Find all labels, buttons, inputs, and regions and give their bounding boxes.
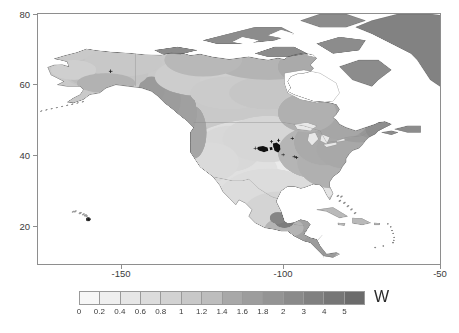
colorbar-segment-9 — [263, 292, 283, 304]
colorbar-segment-3 — [141, 292, 161, 304]
colorbar-segment-8 — [243, 292, 263, 304]
colorbar-segment-4 — [161, 292, 181, 304]
colorbar-segment-0 — [80, 292, 100, 304]
colorbar-segment-13 — [345, 292, 364, 304]
colorbar-segment-12 — [324, 292, 344, 304]
colorbar-segment-2 — [121, 292, 141, 304]
colorbar-segment-6 — [202, 292, 222, 304]
colorbar — [79, 291, 365, 305]
colorbar-group: 00.20.40.60.811.21.41.61.82345 W — [0, 0, 459, 333]
figure-canvas: 80 60 40 20 -150 -100 -50 00.20.40.60.81… — [0, 0, 459, 333]
colorbar-segment-10 — [284, 292, 304, 304]
colorbar-segment-11 — [304, 292, 324, 304]
colorbar-segment-7 — [223, 292, 243, 304]
colorbar-segment-1 — [100, 292, 120, 304]
colorbar-tick-5: 5 — [332, 307, 358, 316]
colorbar-unit-label: W — [374, 288, 389, 306]
colorbar-segment-5 — [182, 292, 202, 304]
